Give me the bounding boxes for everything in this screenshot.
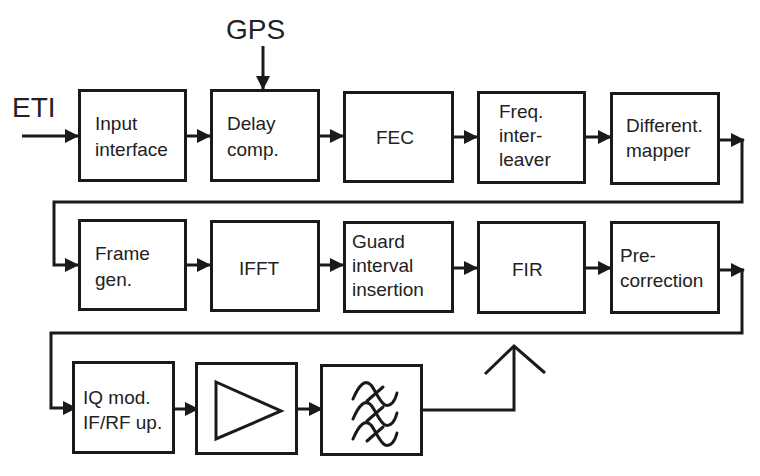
block-differential-mapper: Different. mapper	[610, 92, 720, 185]
gps-label: GPS	[226, 14, 285, 46]
amplifier-icon	[198, 365, 301, 458]
block-amplifier	[195, 362, 298, 455]
block-guard-interval-insertion: Guard interval insertion	[343, 221, 454, 313]
block-input-interface: Input interface	[78, 89, 187, 182]
block-delay-comp: Delay comp.	[210, 89, 320, 182]
block-frame-gen: Frame gen.	[78, 219, 187, 311]
block-pre-correction: Pre- correction	[610, 221, 720, 314]
block-iq-mod: IQ mod. IF/RF up.	[72, 361, 175, 454]
block-fir: FIR	[477, 221, 586, 314]
bandpass-filter-icon	[323, 367, 426, 459]
block-bandpass-filter	[320, 364, 423, 456]
block-fec: FEC	[343, 91, 454, 183]
eti-label: ETI	[12, 92, 56, 124]
block-freq-interleaver: Freq. inter- leaver	[477, 91, 586, 184]
block-ifft: IFFT	[210, 220, 320, 312]
